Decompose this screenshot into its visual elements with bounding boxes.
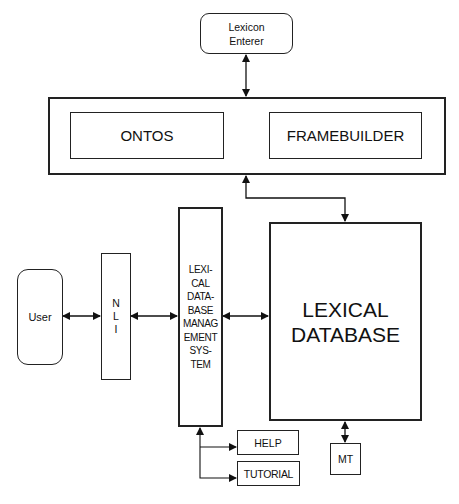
arrow-ldbms-tutorial [200,428,236,478]
ldbms-label: LEXI- CAL DATA- BASE MANAG EMENT SYS- TE… [183,263,218,371]
user-label: User [28,311,51,323]
lexicon-enterer-label: Lexicon Enterer [228,20,264,48]
lexical-database-label: LEXICAL DATABASE [291,297,400,347]
lexical-database-management-system-node: LEXI- CAL DATA- BASE MANAG EMENT SYS- TE… [178,207,223,427]
help-label: HELP [254,437,281,449]
help-node: HELP [237,430,299,455]
framebuilder-label: FRAMEBUILDER [287,127,405,144]
ontos-label: ONTOS [120,127,173,144]
nli-label: N L I [112,297,120,336]
arrow-frame-lexical-database [246,176,345,221]
tutorial-node: TUTORIAL [237,461,300,486]
lexical-database-node: LEXICAL DATABASE [269,222,422,421]
lexicon-enterer-node: Lexicon Enterer [200,13,293,54]
mt-node: MT [330,443,361,475]
tutorial-label: TUTORIAL [244,468,293,480]
nli-node: N L I [101,253,131,380]
framebuilder-node: FRAMEBUILDER [269,112,422,159]
mt-label: MT [338,453,353,465]
user-node: User [17,269,63,365]
ontos-node: ONTOS [70,112,224,159]
